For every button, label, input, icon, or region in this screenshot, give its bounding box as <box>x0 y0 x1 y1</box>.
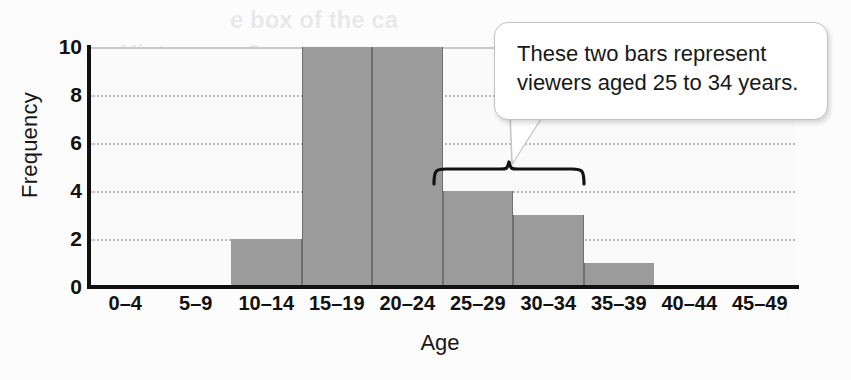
callout-bubble: These two bars represent viewers aged 25… <box>494 22 828 120</box>
bar-10-14 <box>231 239 302 287</box>
x-axis-title: Age <box>300 330 580 356</box>
ghost-text-line-1: e box of the ca <box>230 6 398 34</box>
y-axis-title: Frequency <box>17 35 43 255</box>
y-axis-ticks: 0246810 <box>38 0 82 380</box>
y-tick-label-4: 4 <box>42 180 82 201</box>
gridline-6 <box>90 143 795 145</box>
y-tick-label-8: 8 <box>42 84 82 105</box>
x-axis-line <box>87 285 799 289</box>
y-axis-line <box>87 45 91 289</box>
callout-text: These two bars represent viewers aged 25… <box>517 39 809 98</box>
y-tick-label-0: 0 <box>42 276 82 297</box>
y-tick-label-2: 2 <box>42 228 82 249</box>
bar-25-29 <box>443 191 514 287</box>
brace-annotation <box>430 160 590 186</box>
bar-15-19 <box>302 47 373 287</box>
y-tick-label-6: 6 <box>42 132 82 153</box>
histogram-figure: e box of the ca Histogram C 0246810 0–45… <box>0 0 851 380</box>
y-tick-label-10: 10 <box>42 36 82 57</box>
x-axis-ticks: 0–45–910–1415–1920–2425–2930–3435–3940–4… <box>90 293 795 323</box>
x-tick-label-45-49: 45–49 <box>719 293 802 314</box>
bar-35-39 <box>584 263 655 287</box>
bar-30-34 <box>513 215 584 287</box>
